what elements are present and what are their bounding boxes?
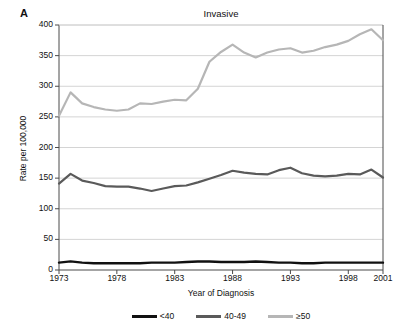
legend-entry-0: <40 [132,312,174,321]
xtick-label-1978: 1978 [97,274,137,283]
legend-label-2: ≥50 [296,312,310,321]
legend-swatch-icon-2 [268,315,293,318]
y-axis-label: Rate per 100,000 [19,89,28,209]
gridlines [59,25,383,239]
plot-area: 050100150200250300350400 197319781983198… [0,0,403,335]
axis-tickmarks [55,25,383,274]
ytick-label-0: 0 [19,265,53,274]
series-line-4049 [59,168,383,191]
ytick-label-350: 350 [19,51,53,60]
figure-panel-a: A Invasive 050100150200250300350400 1973… [0,0,403,335]
ytick-label-400: 400 [19,20,53,29]
legend-swatch-icon-1 [196,315,221,318]
legend-entry-1: 40-49 [196,312,246,321]
xtick-label-1983: 1983 [155,274,195,283]
xtick-label-1993: 1993 [270,274,310,283]
series-line-50 [59,29,383,115]
x-axis-label: Year of Diagnosis [59,289,383,298]
data-series-group [59,29,383,263]
ytick-label-50: 50 [19,234,53,243]
legend-swatch-icon-0 [132,315,157,318]
chart-legend: <4040-49≥50 [59,312,383,321]
series-line-40 [59,261,383,263]
line-chart-svg [0,0,403,335]
legend-entry-2: ≥50 [268,312,310,321]
xtick-label-2001: 2001 [363,274,403,283]
legend-label-0: <40 [160,312,174,321]
legend-label-1: 40-49 [224,312,246,321]
xtick-label-1973: 1973 [39,274,79,283]
xtick-label-1988: 1988 [213,274,253,283]
